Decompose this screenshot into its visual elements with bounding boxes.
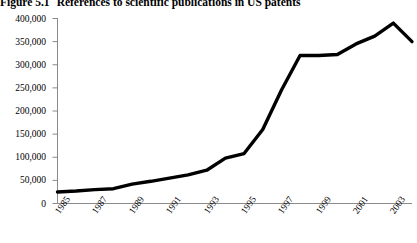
x-axis-tick-label: 1991 bbox=[164, 194, 183, 215]
x-axis-tick-labels: 1985198719891991199319951997199920012003 bbox=[0, 10, 417, 243]
x-axis-tick-label: 1985 bbox=[53, 194, 72, 215]
x-axis-tick-label: 2001 bbox=[351, 194, 370, 215]
x-axis-tick-label: 1999 bbox=[314, 194, 333, 215]
figure-title-text: References to scientific publications in… bbox=[57, 0, 301, 8]
x-axis-tick-label: 2003 bbox=[388, 194, 407, 215]
x-axis-tick-label: 1997 bbox=[276, 194, 295, 215]
x-axis-tick-label: 1995 bbox=[239, 194, 258, 215]
x-axis-tick-label: 1987 bbox=[90, 194, 109, 215]
x-axis-tick-label: 1989 bbox=[127, 194, 146, 215]
figure-container: Figure 5.1References to scientific publi… bbox=[0, 0, 417, 243]
line-chart: 050,000100,000150,000200,000250,000300,0… bbox=[0, 10, 417, 243]
figure-number: Figure 5.1 bbox=[0, 0, 50, 8]
x-axis-tick-label: 1993 bbox=[202, 194, 221, 215]
figure-title: Figure 5.1References to scientific publi… bbox=[0, 0, 417, 10]
